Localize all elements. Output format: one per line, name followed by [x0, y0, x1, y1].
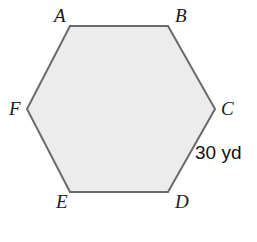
vertex-label-c: C: [221, 99, 234, 118]
hexagon-shape: [27, 26, 215, 192]
vertex-label-b: B: [175, 6, 187, 25]
hexagon-svg: [0, 0, 257, 242]
hexagon-figure: A B C D E F 30 yd: [0, 0, 257, 242]
vertex-label-a: A: [54, 6, 66, 25]
vertex-label-d: D: [175, 192, 189, 211]
vertex-label-f: F: [9, 99, 21, 118]
vertex-label-e: E: [56, 192, 68, 211]
side-length-label: 30 yd: [195, 143, 241, 162]
